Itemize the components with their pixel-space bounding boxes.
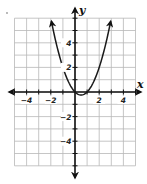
coordinate-plane: −4−22442−2−4 x y: [0, 0, 147, 184]
y-tick-label: 4: [66, 39, 71, 48]
y-axis-label: y: [78, 4, 87, 17]
x-tick-label: −4: [21, 96, 33, 105]
x-axis-label: x: [136, 78, 144, 91]
parabola-curve: [51, 21, 110, 95]
x-tick-label: −2: [45, 96, 57, 105]
y-tick-label: −4: [60, 137, 72, 146]
y-tick-label: −2: [60, 113, 72, 122]
stray-dot: [6, 12, 8, 14]
x-tick-label: 4: [121, 96, 126, 105]
x-tick-label: 2: [97, 96, 102, 105]
y-tick-label: 2: [66, 63, 71, 72]
